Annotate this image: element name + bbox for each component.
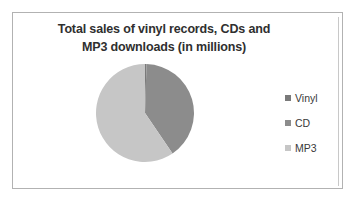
plot-area: Vinyl CD MP3: [13, 13, 344, 190]
legend-label-cd: CD: [295, 117, 310, 129]
legend-item-mp3[interactable]: MP3: [285, 135, 343, 160]
legend-label-vinyl: Vinyl: [295, 92, 318, 104]
legend-swatch-cd: [285, 120, 291, 126]
legend-item-vinyl[interactable]: Vinyl: [285, 85, 343, 110]
pie-slice-group: [96, 64, 194, 162]
legend-swatch-vinyl: [285, 95, 291, 101]
chart-frame: Total sales of vinyl records, CDs and MP…: [12, 12, 343, 189]
legend-divider: [338, 17, 339, 186]
pie-chart: [95, 63, 195, 163]
legend-label-mp3: MP3: [295, 142, 317, 154]
legend-swatch-mp3: [285, 145, 291, 151]
legend-item-cd[interactable]: CD: [285, 110, 343, 135]
chart-legend: Vinyl CD MP3: [285, 85, 343, 160]
